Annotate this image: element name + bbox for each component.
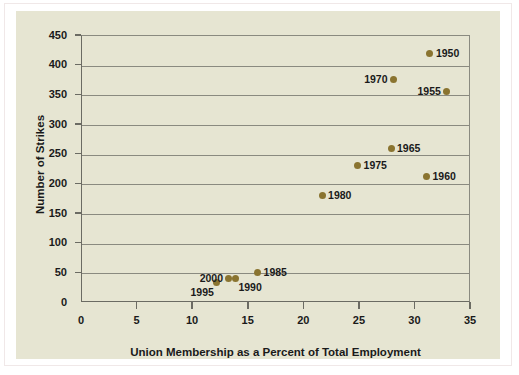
- x-tick-mark-35: [469, 302, 471, 309]
- data-point-label-1995: 1995: [191, 287, 214, 298]
- y-tick-label-300: 300: [33, 119, 67, 130]
- gridline-y-350: [82, 95, 469, 96]
- data-point-1955: [443, 88, 450, 95]
- chart-figure: Number of Strikes Union Membership as a …: [0, 0, 519, 375]
- y-tick-label-400: 400: [33, 59, 67, 70]
- chart-panel: Number of Strikes Union Membership as a …: [16, 11, 500, 359]
- x-tick-mark-15: [247, 302, 249, 309]
- data-point-label-1985: 1985: [264, 267, 287, 278]
- data-point-label-1950: 1950: [436, 48, 459, 59]
- data-point-label-1955: 1955: [418, 86, 441, 97]
- x-tick-mark-25: [358, 302, 360, 309]
- x-tick-label-35: 35: [455, 315, 485, 326]
- x-tick-mark-20: [303, 302, 305, 309]
- x-tick-label-15: 15: [233, 315, 263, 326]
- gridline-y-400: [82, 66, 469, 67]
- x-tick-label-5: 5: [122, 315, 152, 326]
- x-tick-label-30: 30: [399, 315, 429, 326]
- x-tick-mark-5: [136, 302, 138, 309]
- x-tick-label-20: 20: [288, 315, 318, 326]
- x-tick-mark-30: [414, 302, 416, 309]
- x-tick-label-0: 0: [66, 315, 96, 326]
- data-point-1965: [388, 145, 395, 152]
- gridline-y-200: [82, 184, 469, 185]
- data-point-label-1990: 1990: [238, 282, 261, 293]
- data-point-label-2000: 2000: [200, 273, 223, 284]
- y-tick-label-450: 450: [33, 30, 67, 41]
- y-tick-label-100: 100: [33, 237, 67, 248]
- y-tick-label-200: 200: [33, 178, 67, 189]
- y-tick-label-250: 250: [33, 148, 67, 159]
- y-tick-label-0: 0: [33, 297, 67, 308]
- gridline-y-100: [82, 244, 469, 245]
- y-tick-label-150: 150: [33, 208, 67, 219]
- y-tick-label-50: 50: [33, 267, 67, 278]
- x-axis-label: Union Membership as a Percent of Total E…: [81, 346, 470, 358]
- data-point-1960: [423, 173, 430, 180]
- data-point-1980: [319, 192, 326, 199]
- data-point-1950: [426, 50, 433, 57]
- data-point-1970: [390, 76, 397, 83]
- x-tick-label-10: 10: [177, 315, 207, 326]
- data-point-1985: [254, 269, 261, 276]
- plot-area: 1950195519601965197019751980198519901995…: [81, 35, 470, 302]
- data-point-2000: [225, 275, 232, 282]
- data-point-label-1970: 1970: [364, 74, 387, 85]
- data-point-1975: [354, 162, 361, 169]
- x-tick-mark-10: [191, 302, 193, 309]
- x-tick-label-25: 25: [344, 315, 374, 326]
- data-point-label-1980: 1980: [328, 190, 351, 201]
- data-point-label-1965: 1965: [397, 143, 420, 154]
- data-point-label-1960: 1960: [433, 171, 456, 182]
- data-point-label-1975: 1975: [364, 160, 387, 171]
- gridline-y-250: [82, 155, 469, 156]
- y-tick-label-350: 350: [33, 89, 67, 100]
- gridline-y-150: [82, 214, 469, 215]
- gridline-y-300: [82, 125, 469, 126]
